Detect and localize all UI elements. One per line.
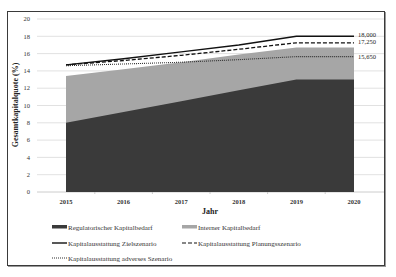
x-tick-label: 2015 xyxy=(60,198,74,205)
area-series xyxy=(66,48,354,192)
y-tick-label: 12 xyxy=(24,84,31,91)
end-label: 17,250 xyxy=(358,38,376,45)
legend-item: Kapitalausstattung adverses Szenario xyxy=(52,255,173,263)
y-axis-ticks: 02468101214161820 xyxy=(24,15,31,195)
y-tick-label: 10 xyxy=(24,102,31,109)
chart: 02468101214161820 2015201620172018201920… xyxy=(0,0,396,277)
end-label: 18,000 xyxy=(358,31,376,38)
x-tick-label: 2020 xyxy=(348,198,361,205)
legend-item: Interner Kapitalbedarf xyxy=(182,224,261,232)
y-tick-label: 14 xyxy=(24,67,31,74)
y-tick-label: 6 xyxy=(27,136,31,143)
x-tick-label: 2019 xyxy=(290,198,304,205)
y-tick-label: 4 xyxy=(27,154,31,161)
y-axis-title: Gesamtkapitalquote (%) xyxy=(11,62,20,147)
y-tick-label: 18 xyxy=(24,33,31,40)
legend-label: Kapitalausstattung Zielszenario xyxy=(68,240,157,248)
y-tick-label: 0 xyxy=(27,188,30,195)
y-tick-label: 8 xyxy=(27,119,30,126)
legend-label: Kapitalausstattung Planungsszenario xyxy=(198,240,301,248)
legend-label: Interner Kapitalbedarf xyxy=(198,224,261,232)
y-tick-label: 2 xyxy=(27,171,30,178)
legend-label: Kapitalausstattung adverses Szenario xyxy=(68,255,173,263)
x-tick-label: 2018 xyxy=(232,198,246,205)
end-labels: 18,00017,25015,650 xyxy=(358,31,376,60)
legend-swatch xyxy=(182,225,197,229)
x-tick-label: 2017 xyxy=(175,198,189,205)
y-tick-label: 20 xyxy=(24,15,31,22)
x-axis-ticks: 201520162017201820192020 xyxy=(60,192,361,205)
legend-swatch xyxy=(52,225,67,229)
x-axis-title: Jahr xyxy=(202,207,218,216)
legend-item: Regulatorischer Kapitalbedarf xyxy=(52,224,153,232)
legend-item: Kapitalausstattung Planungsszenario xyxy=(182,240,301,248)
legend-item: Kapitalausstattung Zielszenario xyxy=(52,240,157,248)
legend: Regulatorischer KapitalbedarfInterner Ka… xyxy=(52,224,301,263)
y-tick-label: 16 xyxy=(24,50,31,57)
x-tick-label: 2016 xyxy=(117,198,131,205)
legend-label: Regulatorischer Kapitalbedarf xyxy=(68,224,153,232)
end-label: 15,650 xyxy=(358,53,376,60)
